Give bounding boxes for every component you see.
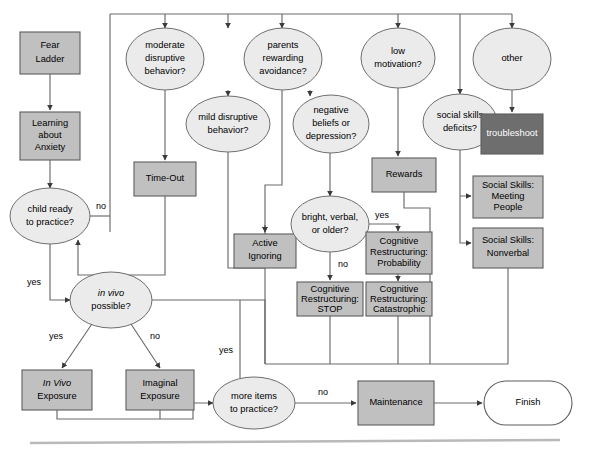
fear-ladder-line-1: Fear bbox=[40, 40, 59, 50]
label-child-ready-no: no bbox=[96, 201, 106, 211]
node-time-out[interactable]: Time-Out bbox=[134, 162, 196, 196]
node-cr-stop[interactable]: Cognitive Restructuring: STOP bbox=[297, 282, 363, 316]
other-label: other bbox=[501, 53, 522, 63]
cr-stop-line-1: Cognitive bbox=[311, 284, 350, 294]
fear-ladder-line-2: Ladder bbox=[36, 54, 65, 64]
child-ready-line-2: to practice? bbox=[26, 217, 74, 227]
time-out-label: Time-Out bbox=[146, 173, 185, 183]
active-ignoring-line-2: Ignoring bbox=[248, 251, 282, 261]
node-cr-catastrophic[interactable]: Cognitive Restructuring: Catastrophic bbox=[366, 282, 432, 316]
node-low-motivation[interactable]: low motivation? bbox=[361, 28, 435, 88]
edge-rewards-return bbox=[404, 192, 430, 364]
label-bright-no: no bbox=[338, 259, 348, 269]
edge-invivo-no bbox=[127, 318, 160, 368]
edge-parents-to-activeignoring bbox=[265, 90, 282, 232]
label-child-ready-yes: yes bbox=[27, 277, 42, 287]
edge-invivo-yes bbox=[62, 318, 96, 368]
edge-timeout-to-childready bbox=[78, 196, 165, 275]
node-parents-rewarding[interactable]: parents rewarding avoidance? bbox=[244, 28, 322, 90]
more-items-line-2: to practice? bbox=[230, 404, 278, 414]
low-motivation-line-1: low bbox=[391, 46, 405, 56]
node-in-vivo-possible[interactable]: in vivo possible? bbox=[70, 272, 152, 328]
cr-stop-line-3: STOP bbox=[317, 304, 342, 314]
parents-line-2: rewarding bbox=[263, 53, 304, 63]
bright-line-1: bright, verbal, bbox=[302, 212, 358, 222]
low-motivation-line-2: motivation? bbox=[374, 59, 422, 69]
bright-line-2: or older? bbox=[312, 225, 349, 235]
edge-bright-yes bbox=[368, 224, 398, 231]
edge-socialskills-to-meeting bbox=[460, 150, 471, 196]
ss-nonverbal-line-2: Nonverbal bbox=[487, 248, 529, 258]
cr-prob-line-1: Cognitive bbox=[380, 236, 419, 246]
node-imaginal-exposure[interactable]: Imaginal Exposure bbox=[126, 370, 194, 410]
node-bright-verbal[interactable]: bright, verbal, or older? bbox=[291, 196, 369, 252]
label-in-vivo-no: no bbox=[150, 331, 160, 341]
learning-line-1: Learning bbox=[32, 118, 68, 128]
more-items-line-1: more items bbox=[231, 391, 277, 401]
moderate-line-2: disruptive bbox=[145, 53, 185, 63]
flowchart-canvas: Fear Ladder Learning about Anxiety child… bbox=[0, 0, 590, 455]
node-in-vivo-exposure[interactable]: In Vivo Exposure bbox=[22, 370, 92, 410]
ss-meeting-line-2: Meeting bbox=[491, 191, 524, 201]
cr-cat-line-2: Restructuring: bbox=[370, 294, 428, 304]
in-vivo-possible-line-1: in vivo bbox=[98, 288, 124, 298]
cr-prob-line-3: Probability bbox=[377, 258, 421, 268]
ss-meeting-line-3: People bbox=[494, 202, 523, 212]
ss-meeting-line-1: Social Skills: bbox=[482, 180, 534, 190]
node-mild-disruptive[interactable]: mild disruptive behavior? bbox=[186, 96, 270, 152]
ssd-line-2: deficits? bbox=[443, 123, 477, 133]
in-vivo-possible-line-2: possible? bbox=[91, 301, 130, 311]
node-rewards[interactable]: Rewards bbox=[372, 158, 436, 192]
edge-childready-yes bbox=[50, 244, 70, 300]
parents-line-3: avoidance? bbox=[259, 66, 307, 76]
negative-line-2: beliefs or bbox=[312, 118, 350, 128]
node-fear-ladder[interactable]: Fear Ladder bbox=[20, 32, 80, 74]
imaginal-exposure-line-2: Exposure bbox=[140, 391, 179, 401]
troubleshoot-label: troubleshoot bbox=[486, 128, 538, 138]
node-child-ready[interactable]: child ready to practice? bbox=[10, 188, 90, 244]
moderate-line-1: moderate bbox=[145, 40, 184, 50]
node-learning-about-anxiety[interactable]: Learning about Anxiety bbox=[20, 112, 80, 160]
cr-cat-line-1: Cognitive bbox=[380, 284, 419, 294]
node-active-ignoring[interactable]: Active Ignoring bbox=[234, 234, 296, 268]
label-more-items-no: no bbox=[318, 387, 328, 397]
footer-rule bbox=[30, 440, 560, 443]
moderate-line-3: behavior? bbox=[145, 66, 186, 76]
cr-cat-line-3: Catastrophic bbox=[373, 304, 426, 314]
maintenance-label: Maintenance bbox=[369, 397, 422, 407]
mild-line-1: mild disruptive bbox=[198, 112, 257, 122]
node-troubleshoot[interactable]: troubleshoot bbox=[481, 114, 543, 154]
rewards-label: Rewards bbox=[386, 169, 423, 179]
node-negative-beliefs[interactable]: negative beliefs or depression? bbox=[293, 95, 369, 153]
node-maintenance[interactable]: Maintenance bbox=[358, 381, 434, 425]
node-ss-meeting-people[interactable]: Social Skills: Meeting People bbox=[473, 176, 543, 218]
learning-line-3: Anxiety bbox=[35, 142, 66, 152]
node-other[interactable]: other bbox=[473, 28, 551, 90]
negative-line-1: negative bbox=[313, 105, 348, 115]
ssd-line-1: social skills bbox=[437, 110, 484, 120]
finish-label: Finish bbox=[516, 397, 541, 407]
node-cr-probability[interactable]: Cognitive Restructuring: Probability bbox=[366, 232, 432, 274]
active-ignoring-line-1: Active bbox=[252, 238, 277, 248]
negative-line-3: depression? bbox=[306, 131, 357, 141]
cr-stop-line-2: Restructuring: bbox=[301, 294, 359, 304]
in-vivo-exposure-line-2: Exposure bbox=[37, 391, 76, 401]
cr-prob-line-2: Restructuring: bbox=[370, 247, 428, 257]
edge-socialskills-to-nonverbal bbox=[460, 196, 471, 243]
node-moderate-disruptive[interactable]: moderate disruptive behavior? bbox=[126, 28, 204, 90]
label-more-items-yes: yes bbox=[219, 345, 234, 355]
in-vivo-exposure-line-1: In Vivo bbox=[43, 378, 71, 388]
imaginal-exposure-line-1: Imaginal bbox=[142, 378, 177, 388]
child-ready-line-1: child ready bbox=[28, 204, 73, 214]
flowchart-svg: Fear Ladder Learning about Anxiety child… bbox=[0, 0, 590, 455]
mild-line-2: behavior? bbox=[208, 125, 249, 135]
label-in-vivo-yes: yes bbox=[49, 331, 64, 341]
label-bright-yes: yes bbox=[375, 210, 390, 220]
node-finish[interactable]: Finish bbox=[484, 381, 572, 425]
ss-nonverbal-line-1: Social Skills: bbox=[482, 235, 534, 245]
learning-line-2: about bbox=[38, 130, 62, 140]
node-more-items[interactable]: more items to practice? bbox=[213, 377, 295, 429]
parents-line-1: parents bbox=[267, 40, 298, 50]
node-ss-nonverbal[interactable]: Social Skills: Nonverbal bbox=[473, 228, 543, 268]
